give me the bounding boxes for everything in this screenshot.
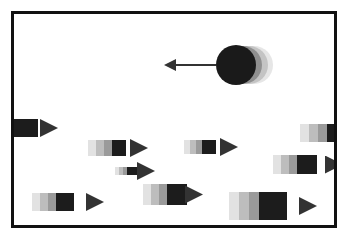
block-body [56, 193, 74, 211]
block-body [259, 192, 287, 220]
block-trail [119, 167, 123, 175]
block-trail [318, 124, 327, 142]
block-trail [159, 184, 167, 205]
block-trail [143, 184, 151, 205]
block-trail [300, 124, 309, 142]
block-trail [273, 155, 281, 174]
block-trail [48, 193, 56, 211]
block-trail [184, 140, 190, 154]
block-trail [249, 192, 259, 220]
block-body [202, 140, 216, 154]
game-stage [0, 0, 349, 240]
block-trail [96, 140, 104, 156]
player-circle [216, 45, 256, 85]
block-trail [115, 167, 119, 175]
block-body [112, 140, 126, 156]
block-trail [104, 140, 112, 156]
block-trail [281, 155, 289, 174]
block-trail [196, 140, 202, 154]
block-trail [151, 184, 159, 205]
block-trail [190, 140, 196, 154]
block-trail [123, 167, 127, 175]
block-body [127, 167, 137, 175]
block-body [297, 155, 317, 174]
block-trail [32, 193, 40, 211]
block-trail [289, 155, 297, 174]
block-body [167, 184, 187, 205]
block-trail [88, 140, 96, 156]
block-body [13, 119, 38, 137]
block-trail [229, 192, 239, 220]
block-trail [239, 192, 249, 220]
moving-block [300, 124, 337, 142]
block-trail [40, 193, 48, 211]
block-trail [309, 124, 318, 142]
